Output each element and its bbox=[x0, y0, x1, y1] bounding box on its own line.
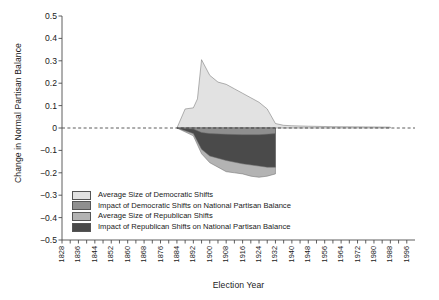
chart-figure: Change in Normal Partisan Balance Electi… bbox=[0, 0, 439, 300]
legend-label: Impact of Democratic Shifts on National … bbox=[98, 201, 291, 212]
y-tick-label: −0.5 bbox=[23, 235, 57, 245]
x-tick-label: 1996 bbox=[402, 246, 412, 262]
legend-label: Impact of Republican Shifts on National … bbox=[98, 222, 290, 233]
y-tick-label: −0.4 bbox=[23, 213, 57, 223]
x-tick-label: 1948 bbox=[303, 246, 313, 262]
x-tick-label: 1836 bbox=[73, 246, 83, 262]
legend-swatch-icon bbox=[72, 191, 91, 200]
legend-swatch-icon bbox=[72, 201, 91, 210]
legend-label: Average Size of Democratic Shifts bbox=[98, 190, 213, 201]
x-axis-title: Election Year bbox=[62, 280, 415, 290]
legend-label: Average Size of Republican Shifts bbox=[98, 211, 213, 222]
legend-item: Average Size of Republican Shifts bbox=[72, 211, 291, 222]
legend-item: Average Size of Democratic Shifts bbox=[72, 190, 291, 201]
x-tick-label: 1876 bbox=[156, 246, 166, 262]
y-tick-label: 0.4 bbox=[23, 33, 57, 43]
x-tick-label: 1908 bbox=[221, 246, 231, 262]
y-tick-label: 0 bbox=[23, 123, 57, 133]
legend-swatch-icon bbox=[72, 212, 91, 221]
y-tick-label: 0.3 bbox=[23, 56, 57, 66]
x-tick-label: 1964 bbox=[336, 246, 346, 262]
x-tick-label: 1924 bbox=[254, 246, 264, 262]
series-area bbox=[177, 60, 390, 128]
x-tick-label: 1884 bbox=[172, 246, 182, 262]
legend-item: Impact of Republican Shifts on National … bbox=[72, 222, 291, 233]
x-tick-label: 1988 bbox=[385, 246, 395, 262]
x-tick-label: 1860 bbox=[123, 246, 133, 262]
x-tick-label: 1916 bbox=[238, 246, 248, 262]
y-tick-label: 0.5 bbox=[23, 11, 57, 21]
x-tick-label: 1868 bbox=[139, 246, 149, 262]
chart-legend: Average Size of Democratic ShiftsImpact … bbox=[72, 190, 291, 232]
legend-swatch-icon bbox=[72, 223, 91, 232]
y-tick-label: 0.2 bbox=[23, 78, 57, 88]
x-tick-label: 1828 bbox=[57, 246, 67, 262]
x-tick-label: 1980 bbox=[369, 246, 379, 262]
x-tick-label: 1972 bbox=[353, 246, 363, 262]
x-tick-label: 1892 bbox=[188, 246, 198, 262]
x-tick-label: 1900 bbox=[205, 246, 215, 262]
y-tick-label: −0.1 bbox=[23, 145, 57, 155]
legend-item: Impact of Democratic Shifts on National … bbox=[72, 201, 291, 212]
y-tick-label: 0.1 bbox=[23, 101, 57, 111]
x-tick-label: 1940 bbox=[287, 246, 297, 262]
x-tick-label: 1852 bbox=[106, 246, 116, 262]
x-tick-label: 1956 bbox=[320, 246, 330, 262]
y-tick-label: −0.3 bbox=[23, 190, 57, 200]
y-tick-label: −0.2 bbox=[23, 168, 57, 178]
x-tick-label: 1844 bbox=[90, 246, 100, 262]
x-tick-label: 1932 bbox=[270, 246, 280, 262]
